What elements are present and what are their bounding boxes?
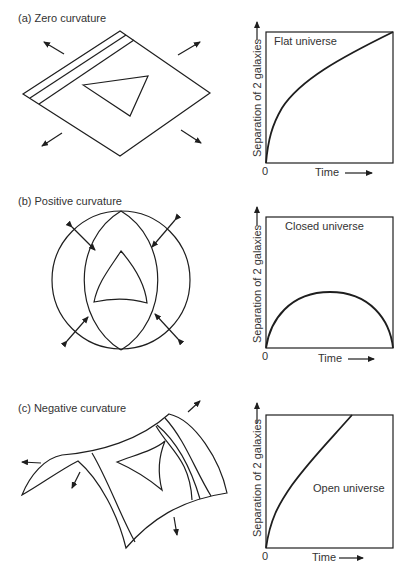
plane-stripe-2 xyxy=(39,40,134,104)
expansion-arrows xyxy=(42,42,201,146)
chart-frame xyxy=(266,217,393,348)
caption-b: (b) Positive curvature xyxy=(18,195,122,207)
plane-stripe-1 xyxy=(30,35,126,98)
sphere-outline xyxy=(52,211,190,349)
saddle-band-left xyxy=(92,453,135,542)
origin-label: 0 xyxy=(262,550,268,562)
arrow-left-icon xyxy=(22,462,41,463)
chart-title-flat: Flat universe xyxy=(274,35,337,47)
chart-title-open: Open universe xyxy=(313,482,385,494)
arrow-up-right-icon xyxy=(188,401,200,412)
caption-c: (c) Negative curvature xyxy=(18,402,126,414)
flat-plane-diagram xyxy=(23,31,210,156)
saddle-outline xyxy=(22,414,227,548)
arrow-down-right-icon xyxy=(181,130,201,143)
closed-curve xyxy=(266,292,393,348)
spherical-triangle xyxy=(94,251,147,303)
double-arrow-lower-left-icon xyxy=(67,317,88,341)
hyperbolic-triangle xyxy=(117,441,165,490)
double-arrows xyxy=(67,220,178,341)
saddle-band-right-2 xyxy=(165,418,211,496)
arrow-down-left-icon xyxy=(72,472,80,488)
chart-open-universe xyxy=(257,403,393,558)
y-axis-label: Separation of 2 galaxies xyxy=(251,39,263,157)
arrow-up-left-icon xyxy=(44,42,64,54)
y-axis-label: Separation of 2 galaxies xyxy=(251,225,263,343)
origin-label: 0 xyxy=(262,350,268,362)
flat-plane-outline xyxy=(23,31,210,156)
x-axis-label: Time xyxy=(312,551,336,563)
arrow-up-right-icon xyxy=(178,42,200,55)
y-axis-label: Separation of 2 galaxies xyxy=(251,419,263,537)
lens-right-arc xyxy=(121,211,158,350)
chart-title-closed: Closed universe xyxy=(285,220,364,232)
caption-a: (a) Zero curvature xyxy=(18,12,106,24)
saddle-diagram xyxy=(22,401,227,548)
chart-frame xyxy=(266,32,393,163)
arrow-down-left-icon xyxy=(42,133,62,146)
origin-label: 0 xyxy=(262,165,268,177)
double-arrow-lower-right-icon xyxy=(155,314,178,339)
arrow-down-icon xyxy=(174,517,177,535)
double-arrow-upper-left-icon xyxy=(72,227,95,250)
x-axis-label: Time xyxy=(318,352,342,364)
sphere-diagram xyxy=(52,211,190,350)
saddle-arrows xyxy=(22,401,200,535)
flat-curve xyxy=(266,32,393,163)
flat-triangle xyxy=(83,76,148,116)
x-axis-label: Time xyxy=(315,166,339,178)
